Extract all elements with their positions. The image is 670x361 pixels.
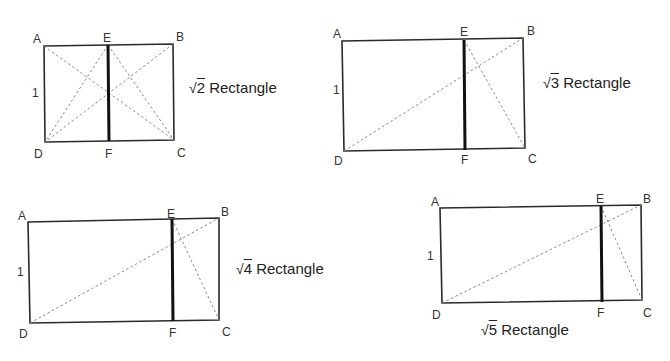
sqrt3-point-e: E (460, 26, 468, 38)
sqrt5-diagonal-ec (601, 206, 642, 300)
sqrt4-title: √4 Rectangle (236, 261, 324, 276)
sqrt3-point-b: B (527, 25, 535, 37)
sqrt3-point-d: D (334, 155, 343, 167)
sqrt5-point-f: F (597, 307, 604, 319)
sqrt5-diagonal-db (442, 205, 641, 303)
sqrt4-point-b: B (221, 206, 229, 218)
sqrt2-point-b: B (176, 31, 184, 43)
sqrt2-point-a: A (33, 33, 41, 45)
sqrt4-point-a: A (18, 210, 26, 222)
sqrt3-diagonal-ec (464, 40, 525, 148)
sqrt2-point-d: D (34, 148, 43, 160)
sqrt5-title: √5 Rectangle (481, 322, 569, 337)
sqrt5-side-label: 1 (427, 250, 434, 262)
sqrt2-point-e: E (103, 32, 111, 44)
sqrt4-side-label: 1 (17, 266, 24, 278)
sqrt5-point-e: E (596, 193, 604, 205)
sqrt3-rectangle-figure (342, 38, 525, 151)
sqrt5-rectangle-figure (440, 205, 642, 303)
sqrt3-point-a: A (333, 28, 341, 40)
sqrt4-diagonal-db (30, 218, 219, 323)
sqrt5-point-b: B (643, 193, 651, 205)
sqrt2-point-f: F (105, 148, 112, 160)
sqrt5-divider-ef (601, 206, 602, 302)
sqrt2-rectangle-figure (44, 44, 174, 142)
sqrt4-point-c: C (222, 326, 231, 338)
sqrt5-point-a: A (431, 196, 439, 208)
sqrt3-side-label: 1 (333, 84, 340, 96)
sqrt4-point-e: E (167, 208, 175, 220)
sqrt3-divider-ef (464, 40, 465, 150)
diagram-canvas (0, 0, 670, 361)
sqrt2-diagonal-ed (45, 45, 108, 142)
sqrt2-divider-ef (108, 45, 109, 141)
sqrt3-diagonal-db (344, 38, 523, 151)
sqrt3-point-f: F (461, 154, 468, 166)
sqrt3-point-c: C (528, 153, 537, 165)
sqrt5-point-c: C (643, 307, 652, 319)
sqrt4-point-f: F (169, 327, 176, 339)
sqrt4-diagonal-ec (172, 219, 219, 320)
sqrt4-point-d: D (19, 328, 28, 340)
sqrt4-rectangle-figure (28, 218, 219, 323)
sqrt4-divider-ef (172, 219, 173, 321)
sqrt3-title: √3 Rectangle (543, 75, 631, 90)
sqrt2-diagonal-ec (108, 45, 174, 140)
sqrt2-title: √2 Rectangle (189, 80, 277, 95)
sqrt5-point-d: D (432, 309, 441, 321)
sqrt2-side-label: 1 (32, 87, 39, 99)
sqrt2-point-c: C (177, 147, 186, 159)
